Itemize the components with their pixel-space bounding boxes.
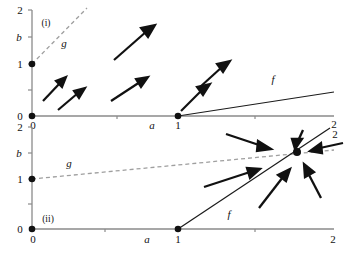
panel-i-ylabel-1: 1	[17, 58, 23, 70]
figure-container: 2 b 1 0 0 a 1 2 (i) g f	[0, 0, 348, 257]
panel-ii-xlabel-a: a	[144, 233, 150, 245]
panel-ii-ylabel-1: 1	[17, 173, 23, 185]
phase-portrait-svg: 2 b 1 0 0 a 1 2 (i) g f	[0, 0, 348, 257]
panel-i-b-axis-dot	[29, 61, 36, 68]
panel-i-curve-g-label: g	[61, 37, 67, 49]
panel-ii-panel-label: (ii)	[42, 214, 54, 225]
panel-ii-ylabel-0: 0	[17, 223, 23, 235]
panel-i-xlabel-0: 0	[30, 119, 36, 131]
panel-ii-curve-g-label: g	[66, 157, 72, 169]
panel-i-xlabel-1: 1	[175, 119, 181, 131]
panel-i-ylabel-b: b	[16, 31, 22, 43]
panel-ii-xlabel-1: 1	[175, 233, 181, 245]
panel-ii-f-root-dot	[175, 226, 182, 233]
panel-i-xlabel-a: a	[149, 119, 155, 131]
panel-i-ylabel-2: 2	[17, 4, 23, 16]
panel-ii-xlabel-0: 0	[30, 233, 36, 245]
panel-ii-g-intercept-dot	[29, 176, 36, 183]
panel-ii-origin-dot	[29, 226, 36, 233]
panel-ii-ylabel-2: 2	[17, 121, 23, 133]
panel-ii-corner-label-2: 2	[332, 128, 338, 140]
panel-ii-ylabel-b: b	[16, 147, 22, 159]
panel-ii-xlabel-2: 2	[330, 233, 336, 245]
panel-i-panel-label: (i)	[42, 18, 51, 29]
